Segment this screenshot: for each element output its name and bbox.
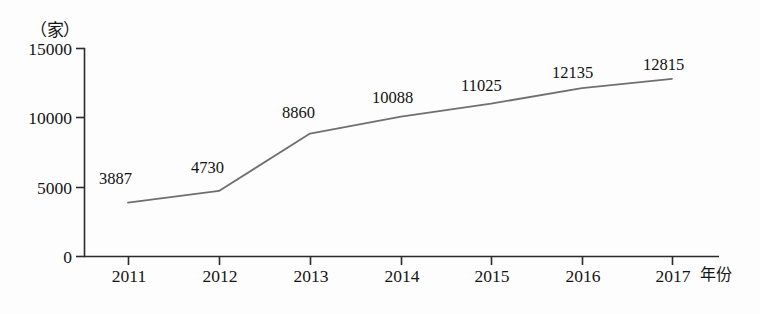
x-tick-label-2016: 2016 [542,268,624,286]
y-tick-label-0: 0 [0,249,72,267]
x-axis-ticks [129,256,673,265]
y-axis-ticks [76,49,85,257]
data-label-2015: 11025 [461,78,502,95]
x-tick-label-2014: 2014 [361,268,443,286]
line-chart: （家） 15000 10000 5000 0 2011 2012 2013 20… [0,0,760,314]
data-label-2011: 3887 [99,171,132,188]
data-label-2016: 12135 [552,65,593,82]
x-axis-name-label: 年份 [700,267,732,283]
data-label-2014: 10088 [372,90,413,107]
x-tick-label-2011: 2011 [88,268,170,286]
data-label-2013: 8860 [282,105,315,122]
y-axis-unit-label: （家） [30,22,80,39]
x-tick-label-2015: 2015 [451,268,533,286]
y-tick-label-10000: 10000 [0,110,72,128]
data-label-2017: 12815 [643,57,684,74]
x-tick-label-2013: 2013 [270,268,352,286]
y-tick-label-5000: 5000 [0,180,72,198]
x-tick-label-2012: 2012 [179,268,261,286]
y-tick-label-15000: 15000 [0,41,72,59]
data-label-2012: 4730 [191,160,224,177]
